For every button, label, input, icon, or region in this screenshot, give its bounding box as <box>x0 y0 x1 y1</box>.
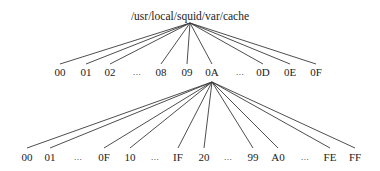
subdirectory-node: 01 <box>45 151 56 163</box>
tree-edge <box>86 23 190 64</box>
ellipsis-label: ... <box>74 151 82 163</box>
tree-edges <box>0 0 380 171</box>
root-directory-label: /usr/local/squid/var/cache <box>131 10 249 22</box>
tree-edge <box>190 23 290 64</box>
subdirectory-node: IF <box>173 151 183 163</box>
subdirectory-node: FE <box>324 151 337 163</box>
subdirectory-node: 0F <box>98 151 110 163</box>
ellipsis-label: ... <box>236 66 244 78</box>
subdirectory-node: A0 <box>271 151 284 163</box>
tree-edge <box>212 82 278 148</box>
subdirectory-node: 20 <box>199 151 210 163</box>
subdirectory-node: 02 <box>105 66 116 78</box>
subdirectory-node: 0D <box>256 66 269 78</box>
directory-tree-diagram: /usr/local/squid/var/cache 000102...0809… <box>0 0 380 171</box>
subdirectory-node: 10 <box>125 151 136 163</box>
tree-edge <box>50 82 212 148</box>
ellipsis-label: ... <box>224 151 232 163</box>
tree-edge <box>187 23 190 64</box>
subdirectory-node: 0E <box>284 66 296 78</box>
subdirectory-node: 00 <box>55 66 66 78</box>
subdirectory-node: 00 <box>22 151 33 163</box>
subdirectory-node: 99 <box>248 151 259 163</box>
subdirectory-node: 08 <box>156 66 167 78</box>
subdirectory-node: FF <box>349 151 361 163</box>
tree-edge <box>212 82 355 148</box>
subdirectory-node: 01 <box>81 66 92 78</box>
ellipsis-label: ... <box>133 66 141 78</box>
ellipsis-label: ... <box>151 151 159 163</box>
subdirectory-node: 0F <box>310 66 322 78</box>
ellipsis-label: ... <box>301 151 309 163</box>
tree-edge <box>130 82 212 148</box>
tree-edge <box>110 23 190 64</box>
tree-edge <box>60 23 190 64</box>
tree-edge <box>204 82 212 148</box>
subdirectory-node: 09 <box>182 66 193 78</box>
subdirectory-node: 0A <box>205 66 218 78</box>
tree-edge <box>212 82 330 148</box>
